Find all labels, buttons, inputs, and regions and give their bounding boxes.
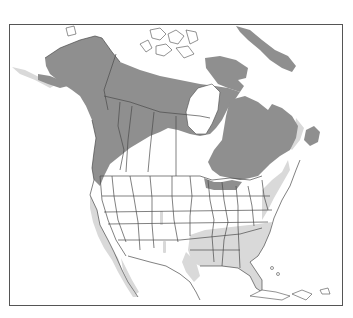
north-america-map bbox=[0, 0, 353, 318]
range-map bbox=[0, 0, 353, 318]
